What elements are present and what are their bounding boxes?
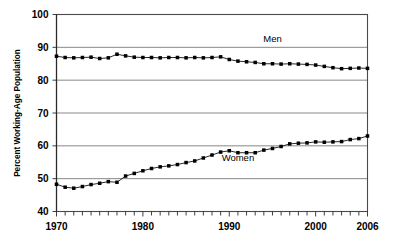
- data-point: [253, 61, 257, 65]
- data-point: [331, 66, 335, 70]
- series-annotation-women: Women: [222, 152, 255, 163]
- data-point: [124, 54, 128, 58]
- x-tick-label-1990: 1990: [218, 221, 241, 232]
- data-point: [202, 56, 206, 60]
- data-point: [133, 55, 137, 59]
- y-tick-label-100: 100: [32, 9, 49, 20]
- data-point: [72, 56, 76, 60]
- data-point: [107, 56, 111, 60]
- data-point: [340, 67, 344, 71]
- data-point: [210, 56, 214, 60]
- data-point: [314, 63, 318, 66]
- data-point: [357, 137, 361, 141]
- data-point: [167, 56, 171, 60]
- data-point: [340, 140, 344, 144]
- data-point: [150, 167, 154, 171]
- data-point: [141, 169, 145, 173]
- data-point: [219, 55, 223, 59]
- y-tick-label-40: 40: [37, 206, 49, 217]
- data-point: [193, 56, 197, 60]
- x-tick-label-1970: 1970: [45, 221, 68, 232]
- y-axis-title: Percent Working-Age Population: [13, 49, 22, 177]
- data-point: [245, 60, 249, 64]
- data-point: [314, 140, 318, 144]
- data-point: [115, 52, 119, 56]
- data-point: [63, 185, 67, 189]
- data-point: [331, 140, 335, 144]
- data-point: [279, 145, 283, 149]
- data-point: [297, 62, 301, 66]
- x-tick-label-2000: 2000: [305, 221, 328, 232]
- y-axis-title-text: Percent Working-Age Population: [13, 49, 22, 177]
- y-tick-label-60: 60: [37, 140, 49, 151]
- data-point: [348, 67, 352, 71]
- chart-container: 405060708090100 19701980199020002006 Men…: [0, 0, 394, 245]
- series-annotation-men: Men: [263, 33, 281, 44]
- data-point: [202, 156, 206, 160]
- data-point: [228, 58, 232, 62]
- data-point: [98, 57, 102, 61]
- data-point: [176, 56, 180, 60]
- data-point: [89, 55, 93, 59]
- data-point: [133, 172, 137, 176]
- data-point: [297, 141, 301, 145]
- data-point: [167, 164, 171, 168]
- data-point: [366, 134, 370, 138]
- data-point: [81, 185, 85, 189]
- data-point: [271, 62, 275, 66]
- y-tick-label-50: 50: [37, 173, 49, 184]
- chart-background: [0, 0, 394, 245]
- data-point: [288, 62, 292, 66]
- data-point: [279, 62, 283, 66]
- data-point: [262, 62, 266, 66]
- data-point: [348, 138, 352, 142]
- data-point: [176, 163, 180, 167]
- data-point: [124, 174, 128, 178]
- data-point: [323, 65, 327, 69]
- y-tick-label-80: 80: [37, 75, 49, 86]
- data-point: [55, 183, 59, 187]
- data-point: [81, 56, 85, 60]
- data-point: [158, 56, 162, 60]
- x-tick-label-2006: 2006: [356, 221, 379, 232]
- y-tick-label-70: 70: [37, 108, 49, 119]
- data-point: [288, 142, 292, 146]
- line-chart: 405060708090100 19701980199020002006 Men…: [0, 0, 394, 245]
- data-point: [98, 182, 102, 186]
- data-point: [72, 186, 76, 190]
- data-point: [184, 161, 188, 165]
- data-point: [89, 183, 93, 187]
- data-point: [262, 148, 266, 152]
- data-point: [63, 56, 67, 60]
- data-point: [271, 147, 275, 151]
- data-point: [236, 59, 240, 63]
- data-point: [357, 66, 361, 70]
- data-point: [55, 54, 59, 58]
- data-point: [305, 63, 309, 67]
- y-tick-label-90: 90: [37, 42, 49, 53]
- data-point: [158, 165, 162, 169]
- data-point: [107, 180, 111, 184]
- data-point: [141, 56, 145, 60]
- data-point: [323, 140, 327, 144]
- data-point: [150, 56, 154, 60]
- data-point: [115, 181, 119, 185]
- data-point: [305, 141, 309, 145]
- x-tick-label-1980: 1980: [132, 221, 155, 232]
- data-point: [210, 153, 214, 157]
- data-point: [193, 159, 197, 163]
- data-point: [366, 67, 370, 71]
- data-point: [184, 56, 188, 60]
